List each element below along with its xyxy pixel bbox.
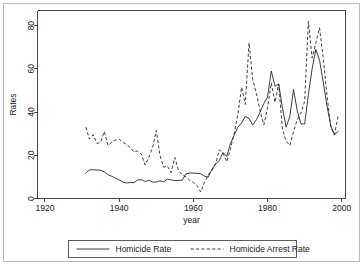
- y-tick-label: 20: [26, 150, 36, 160]
- plot-container: 020406080 19201940196019802000 Rates yea…: [0, 0, 363, 265]
- chart-figure: 020406080 19201940196019802000 Rates yea…: [0, 0, 363, 265]
- x-axis-title: year: [183, 215, 200, 225]
- x-tick-label: 1920: [35, 203, 54, 213]
- x-axis-ticks: 19201940196019802000: [35, 199, 351, 213]
- chart-legend: Homicide Rate Homicide Arrest Rate: [69, 241, 311, 258]
- y-tick-label: 40: [26, 107, 36, 117]
- x-tick-label: 2000: [332, 203, 351, 213]
- series-homicide-rate: [86, 49, 338, 183]
- y-tick-label: 0: [26, 196, 36, 201]
- y-axis-ticks: 020406080: [26, 21, 38, 201]
- axes: [38, 11, 346, 199]
- x-tick-label: 1960: [184, 203, 203, 213]
- series-homicide-arrest-rate: [86, 21, 338, 192]
- y-tick-label: 60: [26, 64, 36, 74]
- y-axis-title: Rates: [8, 93, 18, 115]
- legend-label-homicide-arrest-rate: Homicide Arrest Rate: [230, 244, 311, 254]
- x-tick-label: 1980: [258, 203, 277, 213]
- x-tick-label: 1940: [110, 203, 129, 213]
- data-series: [86, 21, 338, 192]
- line-chart: 020406080 19201940196019802000 Rates yea…: [0, 0, 363, 265]
- y-tick-label: 80: [26, 21, 36, 31]
- legend-label-homicide-rate: Homicide Rate: [116, 244, 172, 254]
